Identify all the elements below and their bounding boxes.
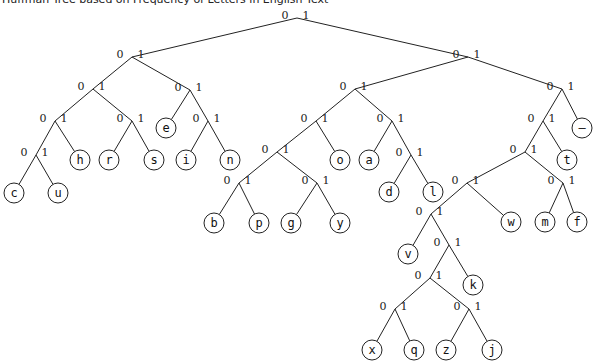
- edge-bit-label: 0: [301, 112, 308, 125]
- leaf-node-a: a: [359, 150, 379, 170]
- edge-bit-label: 0: [224, 174, 231, 187]
- leaf-letter: l: [429, 185, 436, 199]
- tree-edge: [374, 121, 392, 151]
- edge-bit-label: 1: [569, 174, 576, 187]
- edge-bit-label: 0: [282, 9, 289, 22]
- edge-bit-label: 0: [302, 174, 309, 187]
- tree-edge: [239, 183, 255, 214]
- edge-bit-label: 0: [454, 300, 461, 313]
- edge-bit-label: 0: [510, 143, 517, 156]
- edge-bit-label: 1: [401, 300, 408, 313]
- edge-bit-label: 0: [262, 143, 269, 156]
- leaf-node-b: b: [204, 213, 224, 233]
- edge-bit-label: 1: [323, 174, 330, 187]
- leaf-node-p: p: [249, 213, 269, 233]
- edge-bit-label: 0: [21, 146, 28, 159]
- leaf-node-q: q: [404, 340, 424, 360]
- leaf-node-u: u: [48, 183, 68, 203]
- leaf-letter: h: [76, 153, 83, 167]
- tree-edge: [411, 155, 428, 183]
- edge-bit-label: 0: [340, 80, 347, 93]
- edge-bit-label: 0: [548, 174, 555, 187]
- tree-edge: [563, 183, 574, 213]
- edge-bit-label: 1: [417, 146, 424, 159]
- tree-edge: [317, 183, 335, 214]
- leaf-letter: m: [541, 215, 548, 229]
- leaf-letter: x: [368, 343, 375, 357]
- leaf-letter: j: [488, 343, 495, 357]
- edge-bit-label: 0: [416, 205, 423, 218]
- tree-edge: [451, 309, 469, 341]
- edge-bit-label: 1: [361, 80, 368, 93]
- edge-bit-label: 1: [398, 112, 405, 125]
- leaf-letter: e: [162, 121, 169, 135]
- edge-bit-label: 1: [99, 80, 106, 93]
- tree-edge: [171, 90, 190, 120]
- leaf-letter: y: [336, 216, 343, 230]
- edge-bit-label: 0: [117, 112, 124, 125]
- edge-bit-label: 1: [61, 112, 68, 125]
- edge-bit-label: 0: [453, 48, 460, 61]
- edge-bit-label: 1: [283, 143, 290, 156]
- edge-bit-label: 1: [138, 48, 145, 61]
- leaf-letter: q: [410, 343, 417, 357]
- edge-bit-label: 0: [117, 48, 124, 61]
- leaf-letter: d: [385, 185, 392, 199]
- tree-edge: [114, 121, 132, 151]
- leaf-node-d: d: [379, 182, 399, 202]
- tree-edge: [395, 309, 410, 341]
- leaf-node-h: h: [70, 150, 90, 170]
- edge-bit-label: 1: [245, 174, 252, 187]
- leaf-letter: —: [578, 121, 586, 135]
- edge-bit-label: 1: [42, 146, 49, 159]
- tree-edge: [467, 183, 504, 215]
- tree-edge: [469, 309, 487, 341]
- tree-edge: [377, 309, 395, 341]
- leaf-node-o: o: [330, 150, 350, 170]
- leaf-letter: g: [287, 216, 294, 230]
- tree-edges: [19, 18, 577, 341]
- leaf-nodes: cuhrseinbpgyoadlvxqzjkwmft—: [4, 118, 592, 360]
- leaf-letter: p: [255, 216, 262, 230]
- leaf-letter: a: [365, 153, 372, 167]
- tree-edge: [191, 121, 208, 151]
- edge-bit-label: 1: [455, 236, 462, 249]
- leaf-letter: t: [563, 153, 570, 167]
- tree-edge: [36, 155, 53, 184]
- edge-bit-label: 0: [547, 80, 554, 93]
- tree-edge: [355, 89, 392, 121]
- leaf-node-space: —: [572, 118, 592, 138]
- edge-bit-label: 0: [175, 81, 182, 94]
- tree-edge: [543, 121, 562, 151]
- leaf-node-y: y: [330, 213, 350, 233]
- leaf-node-m: m: [535, 212, 555, 232]
- leaf-node-j: j: [482, 340, 502, 360]
- leaf-node-k: k: [463, 275, 483, 295]
- leaf-node-w: w: [501, 212, 521, 232]
- leaf-letter: f: [573, 215, 580, 229]
- edge-bit-label: 1: [473, 174, 480, 187]
- edge-bit-label: 0: [396, 146, 403, 159]
- leaf-letter: k: [469, 278, 477, 292]
- tree-edge: [277, 152, 317, 183]
- edge-bit-label: 1: [437, 205, 444, 218]
- leaf-letter: b: [210, 216, 217, 230]
- edge-bit-label: 1: [436, 269, 443, 282]
- tree-edge: [296, 183, 317, 215]
- leaf-node-s: s: [144, 150, 164, 170]
- leaf-node-l: l: [423, 182, 443, 202]
- leaf-letter: c: [10, 186, 17, 200]
- edge-bit-label: 0: [434, 236, 441, 249]
- tree-edge: [132, 121, 149, 151]
- leaf-node-z: z: [436, 340, 456, 360]
- leaf-node-x: x: [362, 340, 382, 360]
- tree-edge: [355, 57, 468, 89]
- edge-bit-label: 1: [475, 300, 482, 313]
- tree-edge: [394, 155, 411, 183]
- tree-edge: [316, 121, 335, 151]
- edge-bit-label: 0: [452, 174, 459, 187]
- leaf-node-e: e: [156, 118, 176, 138]
- leaf-letter: u: [54, 186, 61, 200]
- leaf-node-n: n: [220, 150, 240, 170]
- edge-bit-label: 1: [322, 112, 329, 125]
